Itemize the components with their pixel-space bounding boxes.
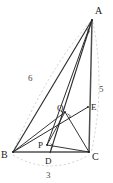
segment-ab [13,20,92,152]
label-point-p: P [38,140,43,150]
vertex-dot-c [88,151,90,153]
label-point-d: D [45,156,52,166]
segment-pq [47,112,65,145]
vertex-dot-b [12,151,14,153]
geometry-figure: A B C D P Q E 6 5 3 [0,0,113,183]
measure-label-ac: 5 [99,84,104,94]
vertex-dot-a [91,19,93,21]
vertex-dot-p [46,144,48,146]
vertex-labels: A B C D P Q E [1,5,103,166]
vertex-dot-q [64,111,66,113]
label-point-q: Q [57,103,64,113]
label-point-c: C [92,151,99,162]
measure-label-bc: 3 [46,170,51,180]
label-point-a: A [95,5,103,16]
segment-ad [50,20,92,153]
geometry-canvas: A B C D P Q E 6 5 3 [0,0,113,183]
side-measure-labels: 6 5 3 [28,73,104,180]
label-point-e: E [91,102,97,112]
segment-ap [47,20,92,145]
measure-label-ab: 6 [28,73,33,83]
segment-ac [89,20,92,152]
triangle-and-cevians [13,20,92,153]
label-point-b: B [1,149,8,160]
vertex-dot-e [87,106,89,108]
